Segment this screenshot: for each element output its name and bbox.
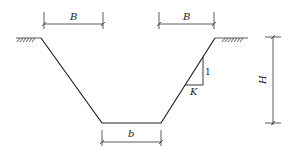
trench-profile (41, 38, 215, 123)
trench-diagram: B B b H 1 K (0, 0, 289, 156)
label-top-right-width: B (182, 11, 190, 22)
label-slope-horizontal: K (189, 86, 198, 97)
label-top-left-width: B (69, 11, 77, 22)
label-bottom-width: b (128, 128, 134, 139)
ground-hatch-left (16, 38, 41, 42)
label-depth: H (257, 75, 268, 85)
ground-hatch-right (215, 38, 248, 42)
label-slope-vertical: 1 (205, 67, 211, 77)
